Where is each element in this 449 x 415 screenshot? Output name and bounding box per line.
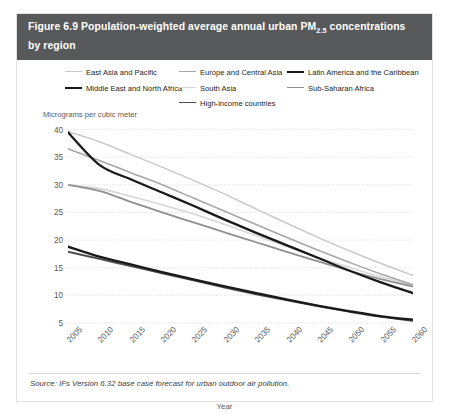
legend-swatch-line-icon	[65, 87, 82, 89]
y-axis-tick-label: 10	[23, 291, 63, 300]
legend-row: East Asia and PacificEurope and Central …	[65, 66, 425, 79]
legend-swatch-line-icon	[287, 71, 304, 73]
figure-body: East Asia and PacificEurope and Central …	[17, 60, 432, 401]
y-axis-tick-label: 30	[23, 180, 63, 189]
figure-title-subscript: 2.5	[316, 26, 326, 35]
legend-label: Middle East and North Africa	[86, 82, 182, 95]
source-note: Source: IFs Version 6.32 base case forec…	[30, 379, 420, 388]
legend-swatch-line-icon	[179, 87, 196, 88]
legend-swatch-line-icon	[65, 71, 82, 72]
y-axis-ticks: 403530252015105	[17, 124, 63, 334]
chart-legend: East Asia and PacificEurope and Central …	[65, 66, 425, 110]
legend-row: Middle East and North AfricaSouth AsiaSu…	[65, 82, 425, 95]
series-line-east-asia-and-pacific	[68, 132, 413, 276]
legend-swatch-line-icon	[287, 87, 304, 88]
plot-area	[68, 124, 413, 334]
y-axis-tick-label: 5	[23, 318, 63, 327]
legend-swatch-line-icon	[179, 71, 196, 72]
figure-title-prefix: Figure 6.9 Population-weighted average a…	[28, 21, 316, 32]
figure-panel: Figure 6.9 Population-weighted average a…	[17, 14, 432, 401]
y-axis-tick-label: 15	[23, 263, 63, 272]
page-title: Figure 6.9 Population-weighted average a…	[28, 20, 420, 53]
legend-row: High-income countries	[65, 97, 425, 110]
legend-swatch-line-icon	[179, 102, 196, 103]
legend-label: East Asia and Pacific	[86, 66, 157, 79]
x-axis-ticks: 2005201020152020202520302035204020452050…	[68, 336, 428, 366]
chart-svg	[68, 124, 413, 334]
legend-label: Sub-Saharan Africa	[308, 82, 374, 95]
y-axis-tick-label: 25	[23, 208, 63, 217]
legend-label: South Asia	[200, 82, 236, 95]
legend-label: Latin America and the Caribbean	[308, 66, 419, 79]
source-divider	[29, 373, 420, 374]
x-axis-label: Year	[17, 402, 432, 411]
legend-label: High-income countries	[200, 97, 276, 110]
y-axis-tick-label: 20	[23, 236, 63, 245]
plot-wrapper: Micrograms per cubic meter 4035302520151…	[17, 110, 432, 360]
figure-title-bar: Figure 6.9 Population-weighted average a…	[17, 14, 432, 60]
series-line-south-asia	[68, 185, 413, 286]
y-axis-tick-label: 35	[23, 153, 63, 162]
series-line-latin-america-and-the-caribbean	[68, 247, 413, 320]
legend-label: Europe and Central Asia	[200, 66, 282, 79]
y-axis-label: Micrograms per cubic meter	[43, 110, 137, 119]
y-axis-tick-label: 40	[23, 125, 63, 134]
